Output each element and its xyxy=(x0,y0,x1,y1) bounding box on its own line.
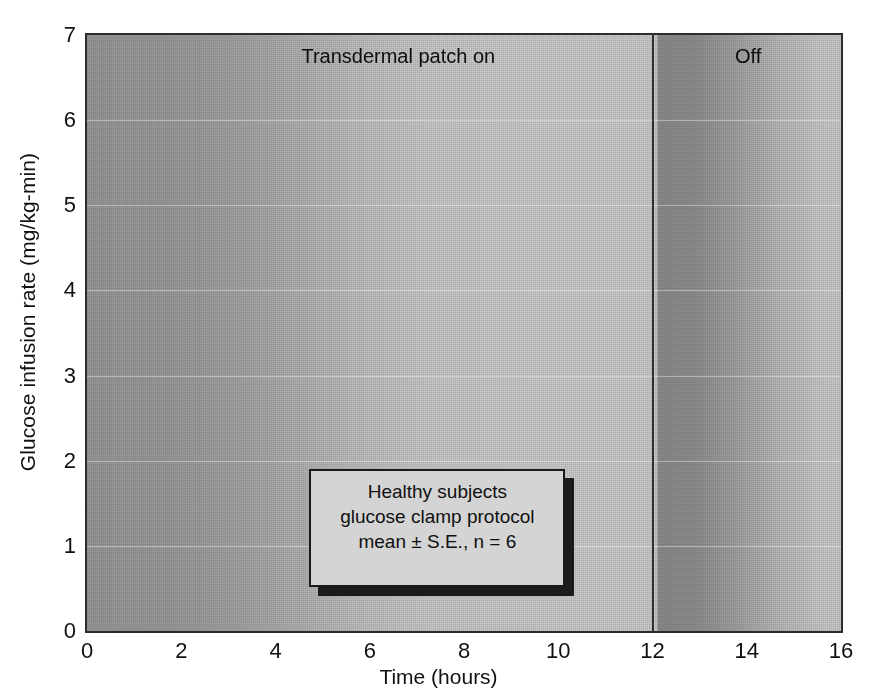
gridline-y-4 xyxy=(87,290,841,291)
legend-box: Healthy subjects glucose clamp protocol … xyxy=(309,469,565,586)
gridline-y-2 xyxy=(87,461,841,462)
x-tick-4: 4 xyxy=(251,638,301,664)
gridline-y-3 xyxy=(87,376,841,377)
x-tick-2: 2 xyxy=(156,638,206,664)
x-tick-12: 12 xyxy=(628,638,678,664)
gridline-y-6 xyxy=(87,120,841,121)
y-tick-3: 3 xyxy=(42,363,76,389)
gridline-y-5 xyxy=(87,205,841,206)
x-tick-0: 0 xyxy=(62,638,112,664)
y-tick-1: 1 xyxy=(42,533,76,559)
x-tick-14: 14 xyxy=(722,638,772,664)
x-tick-16: 16 xyxy=(816,638,866,664)
legend-line-3: mean ± S.E., n = 6 xyxy=(329,530,545,555)
x-tick-8: 8 xyxy=(439,638,489,664)
annotation-patch-on: Transdermal patch on xyxy=(301,45,495,68)
patch-off-divider xyxy=(652,35,654,631)
x-tick-6: 6 xyxy=(345,638,395,664)
y-tick-2: 2 xyxy=(42,448,76,474)
y-tick-6: 6 xyxy=(42,107,76,133)
chart-figure: Glucose infusion rate (mg/kg-min) 765432… xyxy=(0,0,877,698)
y-tick-4: 4 xyxy=(42,277,76,303)
y-axis-tick-labels: 76543210 xyxy=(36,0,76,698)
plot-area: Transdermal patch on Off Healthy subject… xyxy=(85,33,843,633)
legend-line-2: glucose clamp protocol xyxy=(329,505,545,530)
y-tick-5: 5 xyxy=(42,192,76,218)
x-axis-title: Time (hours) xyxy=(0,665,877,689)
legend-line-1: Healthy subjects xyxy=(329,480,545,505)
annotation-patch-off: Off xyxy=(735,45,761,68)
x-tick-10: 10 xyxy=(533,638,583,664)
y-tick-7: 7 xyxy=(42,22,76,48)
